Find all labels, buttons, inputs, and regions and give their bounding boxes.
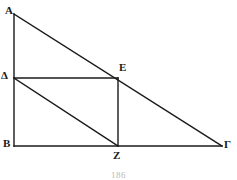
page-number: 186 (0, 171, 237, 180)
geometry-figure: A B Γ Δ E Z 186 (0, 0, 237, 180)
vertex-label-a: A (5, 5, 13, 16)
vertex-label-gamma: Γ (224, 139, 231, 150)
vertex-label-delta: Δ (1, 70, 8, 81)
vertex-label-e: E (119, 62, 126, 73)
vertex-label-b: B (3, 138, 10, 149)
segment-diagonal-DZ (14, 78, 118, 146)
vertex-label-z: Z (113, 150, 120, 161)
